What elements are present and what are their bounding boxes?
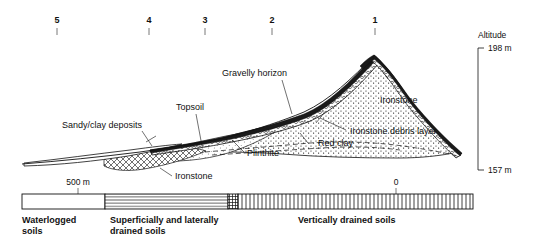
label-ironstone-basal: Ironstone <box>160 168 213 181</box>
legend-caption-vertically-drained: Vertically drained soils <box>298 215 396 225</box>
legend-caption-waterlogged-line1: Waterlogged <box>22 215 76 225</box>
label-text: Plinthite <box>247 148 279 158</box>
legend-bar <box>22 194 473 209</box>
leader-line <box>160 168 172 176</box>
profile-marker-5[interactable]: 5 <box>54 15 59 35</box>
label-text: Ironstone <box>175 171 213 181</box>
altitude-top-label: 198 m <box>488 43 512 53</box>
scale-origin-0: 0 <box>394 177 399 194</box>
profile-marker-label: 1 <box>372 15 377 25</box>
label-text: Gravelly horizon <box>222 68 287 78</box>
legend-caption-superficial-line2: drained soils <box>110 226 166 236</box>
altitude-axis: Altitude 198 m 157 m <box>478 30 512 175</box>
label-gravelly-horizon: Gravelly horizon <box>222 68 292 114</box>
figure-root: 5 4 3 2 1 Altitude <box>0 0 533 242</box>
legend-segment-waterlogged-soils[interactable] <box>22 194 105 209</box>
label-text: Sandy/clay deposits <box>62 120 143 130</box>
label-text: Ironstone <box>380 95 418 105</box>
legend-caption-waterlogged-line2: soils <box>22 226 43 236</box>
label-topsoil: Topsoil <box>176 102 204 146</box>
profile-marker-4[interactable]: 4 <box>146 15 151 35</box>
profile-marker-label: 2 <box>269 15 274 25</box>
profile-marker-label: 4 <box>146 15 151 25</box>
label-ironstone-peak: Ironstone <box>380 95 418 105</box>
label-sandy-clay-deposits: Sandy/clay deposits <box>62 120 156 146</box>
altitude-axis-bracket <box>478 48 484 170</box>
leader-line <box>282 80 292 114</box>
legend-segment-superficially-laterally-drained-soils[interactable] <box>105 194 228 209</box>
legend-segment-vertically-drained-soils[interactable] <box>238 194 473 209</box>
profile-marker-label: 5 <box>54 15 59 25</box>
profile-marker-label: 3 <box>202 15 207 25</box>
scale-bar-500m: 500 m <box>66 177 90 194</box>
profile-marker-2[interactable]: 2 <box>269 15 274 35</box>
leader-line <box>196 114 202 146</box>
profile-marker-3[interactable]: 3 <box>202 15 207 35</box>
legend-captions: Waterlogged soils Superficially and late… <box>22 215 396 236</box>
label-text: Topsoil <box>176 102 204 112</box>
scale-origin-label: 0 <box>394 177 399 187</box>
altitude-bottom-label: 157 m <box>488 165 512 175</box>
profile-markers: 5 4 3 2 1 <box>54 15 377 35</box>
cross-section-svg: 5 4 3 2 1 Altitude <box>0 0 533 242</box>
scale-distance-label: 500 m <box>66 177 90 187</box>
leader-line <box>142 131 152 146</box>
legend-caption-superficial-line1: Superficially and laterally <box>110 215 219 225</box>
legend-segment-transition-notch <box>228 194 238 209</box>
altitude-axis-title: Altitude <box>478 30 507 40</box>
profile-marker-1[interactable]: 1 <box>372 15 377 35</box>
label-text: Ironstone debris layer <box>350 126 437 136</box>
label-text: Red clay <box>318 138 354 148</box>
